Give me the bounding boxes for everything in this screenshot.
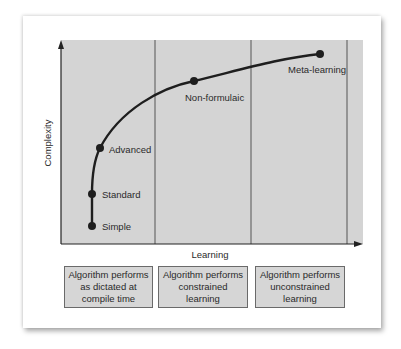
region-box-compile-time: Algorithm performs as dictated at compil…: [64, 266, 153, 308]
box-2-line-1: Algorithm performs: [163, 269, 243, 281]
label-non-formulaic: Non-formulaic: [185, 92, 244, 103]
point-standard: [88, 190, 96, 198]
point-non-formulaic: [190, 77, 198, 85]
box-3-line-1: Algorithm performs: [260, 269, 340, 281]
box-3-line-3: learning: [260, 293, 340, 305]
box-1-line-3: compile time: [68, 293, 148, 305]
label-standard: Standard: [102, 189, 141, 200]
box-2-line-2: constrained: [163, 281, 243, 293]
label-simple: Simple: [102, 221, 131, 232]
point-meta-learning: [316, 50, 324, 58]
box-1-line-2: as dictated at: [68, 281, 148, 293]
box-2-line-3: learning: [163, 293, 243, 305]
label-meta-learning: Meta-learning: [288, 64, 346, 75]
x-axis-label: Learning: [192, 249, 229, 260]
label-advanced: Advanced: [109, 144, 151, 155]
point-advanced: [96, 144, 104, 152]
y-axis-label: Complexity: [42, 120, 53, 167]
point-simple: [88, 222, 96, 230]
box-1-line-1: Algorithm performs: [68, 269, 148, 281]
region-box-unconstrained: Algorithm performs unconstrained learnin…: [255, 266, 345, 308]
region-box-constrained: Algorithm performs constrained learning: [158, 266, 248, 308]
box-3-line-2: unconstrained: [260, 281, 340, 293]
